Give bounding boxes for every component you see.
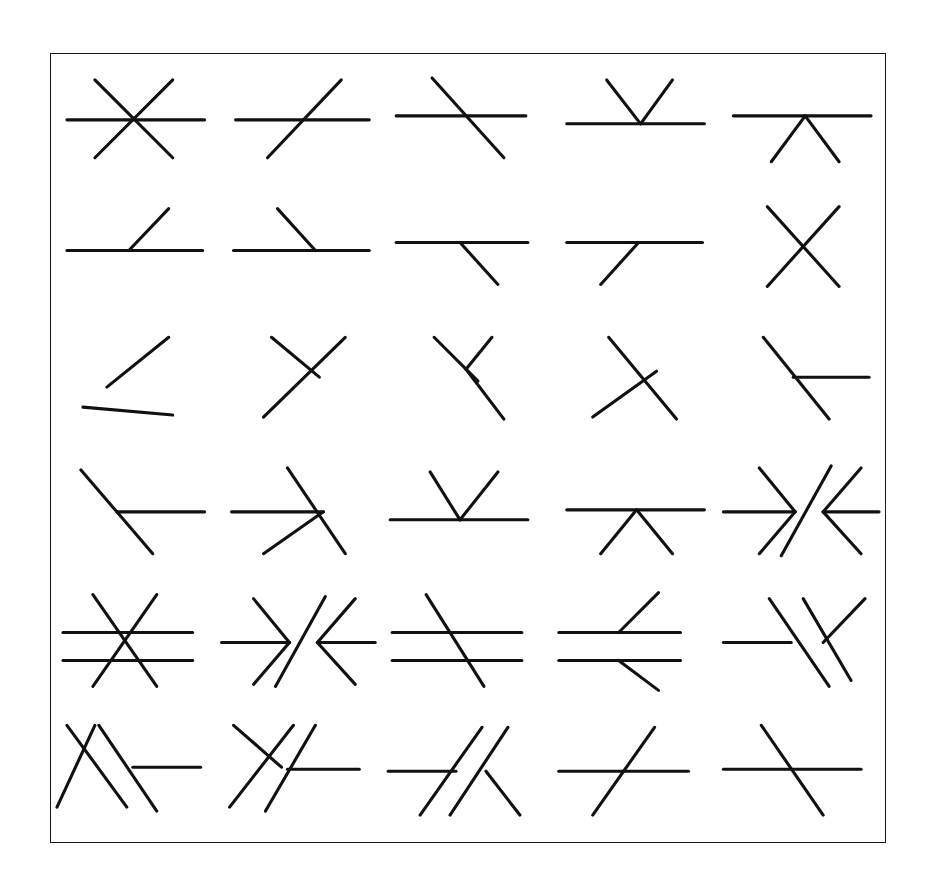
line-segment (637, 510, 673, 554)
line-segment (619, 660, 659, 690)
line-segment (432, 78, 504, 158)
line-segment (254, 599, 290, 643)
stimulus-cell-1-2 (236, 80, 370, 158)
figure-border-box (50, 53, 886, 843)
line-segment (486, 771, 520, 815)
stimulus-cell-4-3 (390, 472, 528, 520)
line-segment (83, 407, 173, 415)
line-segment (317, 643, 355, 685)
stimulus-cell-4-4 (567, 510, 705, 554)
stimulus-cell-2-3 (396, 243, 528, 285)
stimulus-cell-1-5 (733, 116, 871, 162)
stimulus-cell-3-5 (763, 337, 869, 419)
stimulus-cell-6-5 (723, 725, 861, 815)
line-segment (254, 643, 290, 685)
line-segment (107, 337, 169, 387)
line-segment (601, 510, 637, 554)
line-segment (263, 512, 323, 554)
line-segment (601, 243, 639, 285)
line-segment (426, 595, 484, 687)
line-segment (593, 371, 657, 417)
stimulus-cell-3-2 (263, 337, 345, 417)
stimulus-cell-3-4 (593, 337, 677, 419)
stimulus-cell-3-3 (434, 337, 504, 419)
line-segment (263, 337, 345, 417)
figure-canvas (0, 0, 937, 887)
stimulus-cell-3-1 (83, 337, 173, 415)
line-segment (234, 725, 282, 767)
stimulus-cell-6-1 (57, 725, 201, 811)
line-segment (607, 80, 641, 124)
stimulus-cell-6-4 (559, 727, 689, 815)
stimulus-cell-1-3 (396, 78, 526, 158)
stimulus-cell-2-2 (234, 209, 370, 251)
stimulus-cell-5-4 (559, 593, 681, 691)
line-segment (619, 593, 659, 633)
stimulus-cell-2-4 (567, 243, 703, 285)
line-drawing-stimuli (51, 54, 885, 842)
stimulus-cell-5-1 (63, 595, 193, 687)
line-segment (609, 337, 677, 419)
line-segment (759, 468, 795, 512)
line-segment (430, 472, 460, 520)
line-segment (805, 116, 839, 162)
line-segment (81, 470, 117, 512)
line-segment (759, 512, 795, 554)
line-segment (466, 337, 492, 369)
line-segment (317, 599, 355, 643)
line-segment (823, 599, 865, 643)
stimulus-grid (51, 54, 885, 842)
stimulus-cell-2-1 (67, 209, 203, 251)
line-segment (450, 727, 508, 815)
stimulus-cell-1-4 (567, 80, 705, 124)
line-segment (823, 512, 861, 554)
stimulus-cell-6-3 (388, 727, 520, 815)
stimulus-cell-6-2 (230, 725, 360, 811)
stimulus-cell-4-5 (723, 466, 879, 556)
line-segment (771, 116, 805, 162)
line-segment (129, 209, 169, 251)
line-segment (466, 369, 504, 419)
line-segment (230, 725, 294, 807)
line-segment (460, 243, 498, 285)
stimulus-cell-4-2 (232, 468, 346, 554)
stimulus-cell-2-5 (767, 207, 839, 287)
stimulus-cell-5-3 (392, 595, 522, 687)
line-segment (823, 468, 861, 512)
stimulus-cell-5-2 (222, 597, 376, 687)
line-segment (117, 512, 153, 554)
line-segment (460, 472, 498, 520)
line-segment (641, 80, 673, 124)
stimulus-cell-5-5 (723, 599, 865, 687)
line-segment (277, 209, 315, 251)
stimulus-cell-1-1 (67, 80, 205, 158)
stimulus-cell-4-1 (81, 470, 205, 554)
